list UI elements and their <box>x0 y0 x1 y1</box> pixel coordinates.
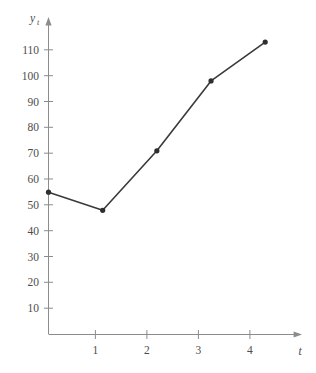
y-tick-labels: 10 20 30 40 50 60 70 80 90 100 110 <box>22 44 40 314</box>
caption-strip <box>0 359 316 373</box>
data-point <box>100 208 105 213</box>
y-tick-label: 30 <box>28 251 40 263</box>
data-point <box>46 190 51 195</box>
y-tick-label: 100 <box>22 70 40 82</box>
y-tick-label: 10 <box>28 302 40 314</box>
series-line <box>49 42 266 210</box>
chart-plot-area: 10 20 30 40 50 60 70 80 90 100 110 1 2 3… <box>0 0 316 373</box>
line-chart: 10 20 30 40 50 60 70 80 90 100 110 1 2 3… <box>0 0 316 373</box>
series-markers <box>46 40 268 213</box>
y-axis-label-subscript: t <box>37 18 40 27</box>
y-tick-label: 50 <box>28 199 40 211</box>
x-axis-arrow-icon <box>294 331 302 337</box>
data-point <box>263 40 268 45</box>
x-tick-label: 1 <box>93 344 99 356</box>
y-tick-label: 60 <box>28 173 40 185</box>
y-axis <box>45 17 51 334</box>
x-axis <box>49 331 303 337</box>
y-tick-label: 80 <box>28 121 40 133</box>
x-tick-label: 4 <box>247 344 253 356</box>
x-tick-labels: 1 2 3 4 <box>93 344 254 356</box>
y-tick-label: 40 <box>28 225 40 237</box>
x-tick-label: 2 <box>144 344 150 356</box>
y-axis-label: y <box>29 12 36 25</box>
data-point <box>208 78 213 83</box>
y-tick-label: 110 <box>22 44 39 56</box>
y-axis-arrow-icon <box>45 17 51 25</box>
y-tick-label: 90 <box>28 96 40 108</box>
data-point <box>154 148 159 153</box>
x-tick-label: 3 <box>196 344 202 356</box>
x-axis-label: t <box>298 345 302 357</box>
y-tick-label: 20 <box>28 276 40 288</box>
data-series-y-t <box>46 40 268 213</box>
y-tick-label: 70 <box>28 147 40 159</box>
